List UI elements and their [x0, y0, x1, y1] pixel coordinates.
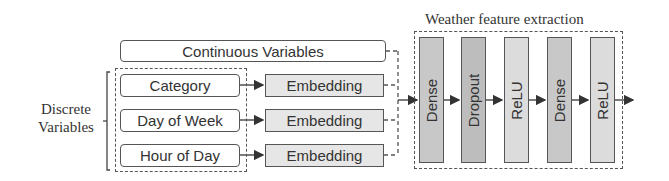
- embedding-label: Embedding: [287, 112, 363, 129]
- embedding-label: Embedding: [287, 147, 363, 164]
- dense-layer-1-label: Dense: [423, 78, 440, 121]
- embedding-box-day-of-week: Embedding: [265, 109, 384, 132]
- relu-layer-1: ReLU: [504, 37, 529, 163]
- dense-layer-2: Dense: [547, 37, 572, 163]
- dropout-layer-label: Dropout: [465, 73, 482, 126]
- hour-of-day-input-box: Hour of Day: [120, 144, 240, 167]
- day-of-week-label: Day of Week: [137, 112, 223, 129]
- embedding-box-hour-of-day: Embedding: [265, 144, 384, 167]
- continuous-variables-label: Continuous Variables: [182, 43, 323, 60]
- continuous-variables-box: Continuous Variables: [120, 40, 386, 62]
- relu-layer-1-label: ReLU: [508, 81, 525, 119]
- dense-layer-2-label: Dense: [551, 78, 568, 121]
- day-of-week-input-box: Day of Week: [120, 109, 240, 132]
- category-label: Category: [150, 77, 211, 94]
- dense-layer-1: Dense: [419, 37, 444, 163]
- discrete-variables-label: Discrete Variables: [30, 100, 102, 136]
- discrete-label-line1: Discrete: [30, 100, 102, 118]
- category-input-box: Category: [120, 74, 240, 97]
- weather-feature-extraction-title: Weather feature extraction: [425, 11, 635, 27]
- hour-of-day-label: Hour of Day: [140, 147, 220, 164]
- dropout-layer: Dropout: [461, 37, 486, 163]
- embedding-box-category: Embedding: [265, 74, 384, 97]
- relu-layer-2-label: ReLU: [594, 81, 611, 119]
- embedding-label: Embedding: [287, 77, 363, 94]
- discrete-label-line2: Variables: [30, 118, 102, 136]
- relu-layer-2: ReLU: [590, 37, 615, 163]
